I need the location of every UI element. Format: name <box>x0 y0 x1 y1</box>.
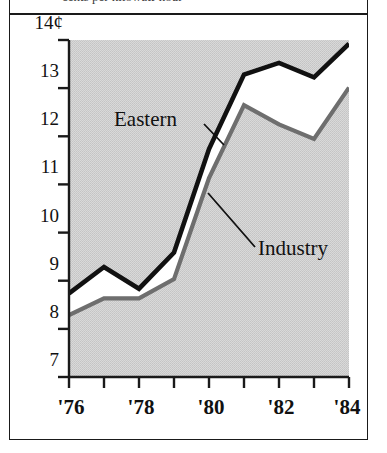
y-tick-label-13: 13 <box>40 60 59 81</box>
y-tick-label-14: 14¢ <box>35 15 64 33</box>
chart-region: 14¢ 13 12 11 10 9 8 7 <box>10 15 367 439</box>
y-tick-label-11: 11 <box>41 156 59 177</box>
x-tick-label-1984: '84 <box>334 395 361 419</box>
x-axis-ticks <box>69 377 349 388</box>
y-axis-tick-labels: 14¢ 13 12 11 10 9 8 7 <box>35 15 64 370</box>
x-tick-label-1978: '78 <box>128 395 155 419</box>
x-tick-label-1980: '80 <box>198 395 225 419</box>
y-tick-label-10: 10 <box>40 205 59 226</box>
y-axis-ticks <box>58 40 69 377</box>
caption-strip: cents per kilowatt-hour <box>10 0 367 13</box>
x-tick-label-1982: '82 <box>268 395 295 419</box>
y-tick-label-8: 8 <box>50 301 60 322</box>
y-tick-label-12: 12 <box>40 108 59 129</box>
y-tick-label-7: 7 <box>50 349 60 370</box>
x-tick-label-1976: '76 <box>58 395 85 419</box>
y-tick-label-9: 9 <box>50 253 60 274</box>
caption-text-clipped: cents per kilowatt-hour <box>62 0 183 5</box>
line-chart: 14¢ 13 12 11 10 9 8 7 <box>10 15 367 438</box>
series-label-industry: Industry <box>258 236 328 260</box>
series-label-eastern: Eastern <box>114 107 177 131</box>
figure-frame: cents per kilowatt-hour <box>9 0 368 440</box>
x-axis-tick-labels: '76 '78 '80 '82 '84 <box>58 395 361 419</box>
